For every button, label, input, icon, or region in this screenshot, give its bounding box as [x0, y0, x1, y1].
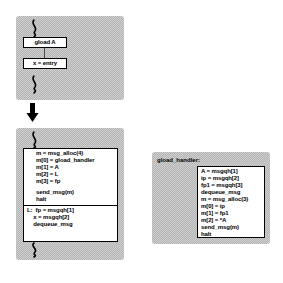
- statement-box-gload[interactable]: gload A: [23, 37, 67, 48]
- code-line: dequeue_msg: [201, 189, 264, 196]
- code-line: m = msg_alloc(3): [201, 196, 264, 203]
- transformed-code-box[interactable]: m = msg_alloc(4) m[0] = gload_handler m[…: [23, 148, 118, 242]
- statement-text-assign-entry: x = entry: [33, 60, 57, 67]
- code-line: halt: [36, 196, 117, 203]
- code-line: dequeue_msg: [27, 221, 117, 228]
- code-line: halt: [201, 231, 264, 238]
- transformation-arrow: [27, 103, 39, 122]
- code-line: fp1 = msgqh[3]: [201, 182, 264, 189]
- statement-box-assign-entry[interactable]: x = entry: [23, 58, 67, 69]
- code-line: x = msgqh[2]: [27, 214, 117, 221]
- gload-handler-caption: gload_handler:: [157, 157, 200, 164]
- code-line: m = msg_alloc(4): [36, 150, 117, 157]
- code-line: m[2] = L: [36, 171, 117, 178]
- code-line: ip = msgqh[2]: [201, 175, 264, 182]
- code-line: m[2] = *A: [201, 217, 264, 224]
- code-line: send_msg(m): [201, 224, 264, 231]
- code-line: A = msgqh[1]: [201, 168, 264, 175]
- code-line: send_msg(m): [36, 189, 117, 196]
- diagram-root: gload A x = entry m = msg_alloc(4) m[0] …: [0, 0, 283, 283]
- resume-segment: L: fp = msgqh[1] x = msgqh[2] dequeue_ms…: [24, 205, 117, 230]
- code-line: m[1] = A: [36, 164, 117, 171]
- code-line: m[1] = fp1: [201, 210, 264, 217]
- code-line: L: fp = msgqh[1]: [27, 207, 117, 214]
- code-line: m[3] = fp: [36, 178, 117, 185]
- send-segment: m = msg_alloc(4) m[0] = gload_handler m[…: [24, 149, 117, 205]
- handler-body: A = msgqh[1] ip = msgqh[2] fp1 = msgqh[3…: [198, 167, 264, 240]
- gload-handler-code-box[interactable]: A = msgqh[1] ip = msgqh[2] fp1 = msgqh[3…: [197, 166, 265, 238]
- code-line: m[0] = ip: [201, 203, 264, 210]
- code-line: m[0] = gload_handler: [36, 157, 117, 164]
- statement-text-gload: gload A: [34, 39, 55, 46]
